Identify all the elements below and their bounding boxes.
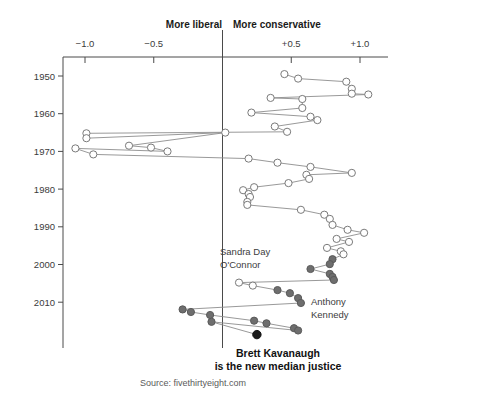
- data-point: [306, 175, 313, 182]
- median-justice-ideology-chart: More liberal More conservative −1.0−0.5+…: [0, 0, 485, 396]
- data-point: [245, 155, 252, 162]
- data-point: [244, 201, 251, 208]
- y-tick-label: 1950: [34, 71, 55, 82]
- data-point: [329, 221, 336, 228]
- data-point: [235, 279, 242, 286]
- data-point: [285, 180, 292, 187]
- data-point: [345, 238, 352, 245]
- data-point: [267, 94, 274, 101]
- data-point: [348, 169, 355, 176]
- data-point: [340, 251, 347, 258]
- y-tick-label: 2010: [34, 297, 55, 308]
- data-point: [297, 299, 304, 306]
- data-point: [263, 320, 270, 327]
- x-tick-label: −1.0: [76, 38, 95, 49]
- data-point: [249, 282, 256, 289]
- y-axis-tick-marks: [58, 76, 63, 302]
- axis-header-more-conservative: More conservative: [233, 19, 321, 30]
- y-tick-label: 2000: [34, 259, 55, 270]
- data-point: [253, 330, 261, 338]
- data-point: [274, 287, 281, 294]
- axis-header-more-liberal: More liberal: [166, 19, 222, 30]
- y-axis-tick-labels: 1950196019701980199020002010: [34, 71, 55, 308]
- data-point: [314, 117, 321, 124]
- data-point: [295, 75, 302, 82]
- data-point: [323, 244, 330, 251]
- data-point: [284, 128, 291, 135]
- data-point: [307, 113, 314, 120]
- brett-kavanaugh-callout-line1: Brett Kavanaugh: [236, 347, 320, 359]
- x-tick-label: +1.0: [351, 38, 370, 49]
- data-point: [251, 184, 258, 191]
- data-point: [361, 229, 368, 236]
- chart-container: More liberal More conservative −1.0−0.5+…: [0, 0, 485, 396]
- brett-kavanaugh-callout-line2: is the new median justice: [215, 360, 342, 372]
- anthony-kennedy-line2: Kennedy: [311, 309, 349, 320]
- data-point: [307, 163, 314, 170]
- data-point: [365, 91, 372, 98]
- data-point: [297, 206, 304, 213]
- data-point: [281, 71, 288, 78]
- data-point: [248, 109, 255, 116]
- data-point: [164, 148, 171, 155]
- source-caption: Source: fivethirtyeight.com: [140, 378, 246, 388]
- data-point: [286, 290, 293, 297]
- data-point: [208, 318, 215, 325]
- x-tick-label: +0.5: [282, 38, 301, 49]
- data-point: [299, 95, 306, 102]
- data-point: [207, 311, 214, 318]
- data-point: [299, 104, 306, 111]
- data-point: [295, 327, 302, 334]
- data-point: [147, 144, 154, 151]
- anthony-kennedy-line1: Anthony: [311, 296, 346, 307]
- y-tick-label: 1990: [34, 221, 55, 232]
- axis-headers: More liberal More conservative: [166, 19, 321, 30]
- data-point: [72, 145, 79, 152]
- data-point: [307, 265, 314, 272]
- data-point: [274, 159, 281, 166]
- sandra-day-oconnor-line2: O'Connor: [220, 259, 260, 270]
- x-tick-label: −0.5: [144, 38, 163, 49]
- sandra-day-oconnor-line1: Sandra Day: [220, 246, 270, 257]
- data-point: [348, 90, 355, 97]
- data-point: [271, 123, 278, 130]
- data-point: [251, 317, 258, 324]
- data-point: [333, 235, 340, 242]
- data-point: [83, 135, 90, 142]
- data-point: [90, 151, 97, 158]
- y-tick-label: 1960: [34, 108, 55, 119]
- y-tick-label: 1970: [34, 146, 55, 157]
- data-point: [187, 308, 194, 315]
- data-point: [125, 142, 132, 149]
- data-point: [222, 129, 229, 136]
- data-point: [330, 276, 337, 283]
- data-point: [343, 78, 350, 85]
- data-point: [326, 261, 333, 268]
- y-tick-label: 1980: [34, 184, 55, 195]
- data-point: [179, 306, 186, 313]
- data-point: [344, 226, 351, 233]
